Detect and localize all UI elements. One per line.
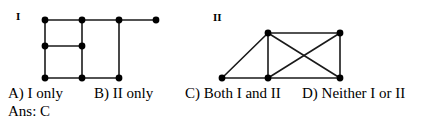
graph-vertex (79, 17, 86, 24)
graph-vertex (116, 75, 123, 82)
graph-nodes-layer (42, 17, 344, 82)
option-d[interactable]: D) Neither I or II (302, 84, 405, 103)
graph-vertex (265, 75, 272, 82)
graph-vertex (337, 30, 344, 37)
graph-vertex (79, 75, 86, 82)
graph-vertex (42, 43, 49, 50)
option-b[interactable]: B) II only (94, 84, 153, 103)
graph-vertex (337, 75, 344, 82)
graph-vertex (116, 17, 123, 24)
graph-vertex (42, 17, 49, 24)
answer-key-text: Ans: C (8, 102, 50, 121)
figure-two-label: II (213, 12, 222, 23)
option-c[interactable]: C) Both I and II (185, 84, 281, 103)
graph-vertex (153, 17, 160, 24)
graph-edge (222, 33, 268, 78)
graph-edges-layer (45, 20, 340, 78)
graph-vertex (219, 75, 226, 82)
graph-vertex (79, 43, 86, 50)
answer-options-row: A) I only B) II only C) Both I and II D)… (0, 84, 429, 104)
figure-one-label: I (16, 11, 20, 22)
graph-vertex (42, 75, 49, 82)
graph-vertex (265, 30, 272, 37)
question-figure-page: I II A) I only B) II only C) Both I and … (0, 0, 429, 125)
graph-edge (268, 33, 340, 78)
graph-edge (268, 33, 340, 78)
option-a[interactable]: A) I only (8, 84, 63, 103)
